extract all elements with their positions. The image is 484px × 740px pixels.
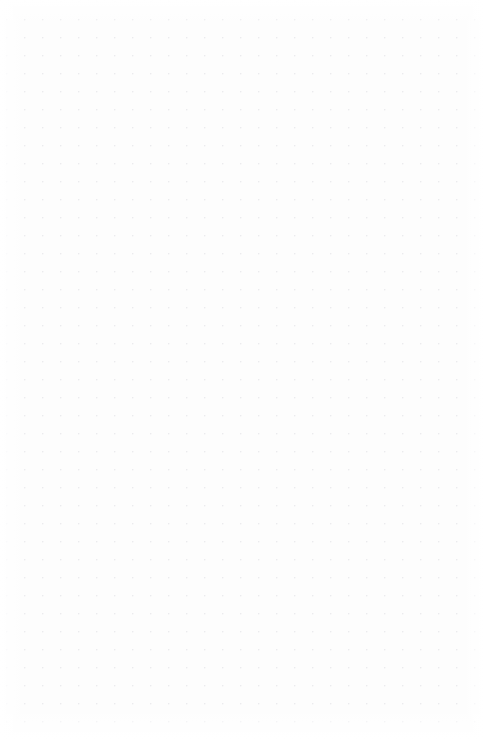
dot-grid-pattern — [0, 0, 477, 724]
dot-grid-canvas[interactable] — [0, 0, 484, 740]
